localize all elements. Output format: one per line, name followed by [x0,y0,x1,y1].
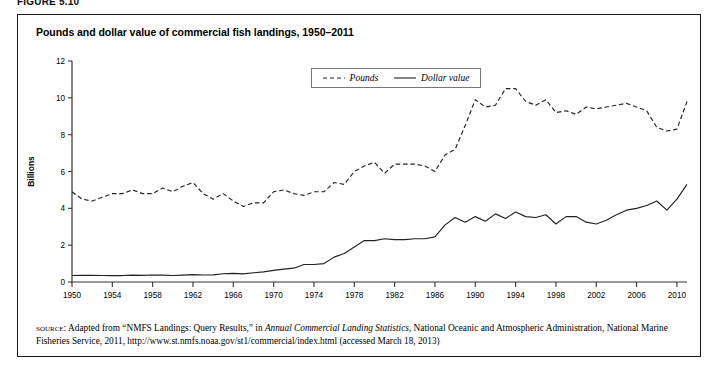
x-tick-label: 2006 [627,291,646,300]
x-tick-label: 1994 [506,291,525,300]
x-tick-label: 1982 [386,291,405,300]
y-axis-title: Billions [26,156,36,187]
y-tick-label: 2 [60,241,65,250]
x-tick-label: 1954 [103,291,122,300]
series-line-pounds [72,89,687,207]
x-tick-label: 1990 [466,291,485,300]
x-tick-label: 1978 [345,291,364,300]
x-tick-label: 1962 [184,291,203,300]
y-axis-title-group: Billions [26,156,36,187]
series-line-dollar-value [72,184,687,275]
axis-lines [72,61,687,282]
plot-area: Billions 024681012 195019541958196219661… [18,51,702,323]
source-note: source: Adapted from “NMFS Landings: Que… [36,321,684,348]
y-tick-label: 0 [60,278,65,287]
x-tick-label: 1974 [305,291,324,300]
y-tick-label: 10 [56,94,66,103]
source-part1: Adapted from “NMFS Landings: Query Resul… [66,323,265,333]
x-tick-label: 2002 [587,291,606,300]
x-tick-label: 1966 [224,291,243,300]
source-italic-title: Annual Commercial Landing Statistics [265,323,409,333]
y-tick-label: 4 [60,204,65,213]
x-tick-label: 1986 [426,291,445,300]
data-series [72,89,687,276]
x-tick-label: 1958 [144,291,163,300]
line-chart: Billions 024681012 195019541958196219661… [18,51,702,323]
x-tick-label: 1998 [547,291,566,300]
figure-label: FIGURE 5.10 [17,0,79,7]
chart-title: Pounds and dollar value of commercial fi… [36,26,354,38]
y-axis-ticks: 024681012 [56,57,72,287]
y-tick-label: 6 [60,168,65,177]
y-tick-label: 12 [56,57,66,66]
x-tick-label: 2010 [668,291,687,300]
x-axis-ticks: 1950195419581962196619701974197819821986… [63,282,687,300]
y-tick-label: 8 [60,131,65,140]
x-tick-label: 1970 [265,291,284,300]
x-tick-label: 1950 [63,291,82,300]
figure-panel: Pounds and dollar value of commercial fi… [17,14,701,357]
source-kicker: source: [36,322,66,333]
